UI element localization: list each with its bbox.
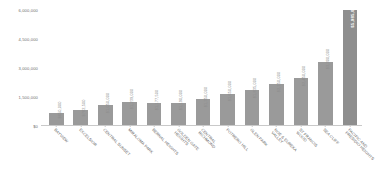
bar-slot: $1,650,000	[215, 10, 239, 125]
x-axis-slot: SEA CLIFF	[313, 127, 337, 184]
bar-slot: $5,985,000	[338, 10, 362, 125]
x-axis-tick-label: BAYVIEW	[53, 128, 69, 144]
plot-area: $650,000$782,500$1,050,000$1,239,000$1,1…	[44, 10, 362, 126]
bar[interactable]: $5,985,000	[343, 10, 358, 125]
bar-slot: $1,835,000	[240, 10, 264, 125]
bar-slot: $1,350,000	[191, 10, 215, 125]
bar-value-label: $5,985,000	[350, 5, 355, 29]
x-axis-slot: CENTRALRICHMOND	[191, 127, 215, 184]
bar-slot: $1,239,000	[117, 10, 141, 125]
x-axis-slot: MIRALOMA PARK	[117, 127, 141, 184]
y-axis: $01,500,0003,000,0004,500,0006,000,000	[0, 10, 42, 126]
x-axis-slot: BERNAL HEIGHTS	[142, 127, 166, 184]
x-axis-tick-label: PACIFIC ANDPRESIDIO HEIGHTS	[344, 128, 378, 162]
x-axis-slot: ST FRANCISWOOD	[289, 127, 313, 184]
x-axis-label-line: BAYVIEW	[53, 127, 69, 143]
y-axis-tick-label: 6,000,000	[18, 8, 38, 13]
x-axis-slot: CENTRAL SUNSET	[93, 127, 117, 184]
bar-slot: $1,050,000	[93, 10, 117, 125]
bar-slot: $2,450,000	[289, 10, 313, 125]
x-axis-slot: BAYVIEW	[44, 127, 68, 184]
x-axis-slot: GOLDEN GATEHEIGHTS	[166, 127, 190, 184]
axis-baseline	[41, 125, 362, 126]
x-axis-slot: NOE & EUREKAVALLEY	[264, 127, 288, 184]
x-axis-slot: POTRERO HILL	[215, 127, 239, 184]
y-axis-tick-label: 4,500,000	[18, 37, 38, 42]
x-axis-slot: GLEN PARK	[240, 127, 264, 184]
bar-slot: $1,177,500	[142, 10, 166, 125]
bar-series: $650,000$782,500$1,050,000$1,239,000$1,1…	[44, 10, 362, 125]
x-axis-slot: PACIFIC ANDPRESIDIO HEIGHTS	[338, 127, 362, 184]
bar[interactable]	[318, 62, 333, 125]
y-axis-tick-label: $0	[33, 124, 38, 129]
bar-slot: $1,190,000	[166, 10, 190, 125]
y-axis-tick-label: 1,500,000	[18, 95, 38, 100]
bar-slot: $782,500	[68, 10, 92, 125]
x-axis: BAYVIEWEXCELSIORCENTRAL SUNSETMIRALOMA P…	[44, 127, 362, 184]
bar-slot: $3,300,000	[313, 10, 337, 125]
x-axis-slot: EXCELSIOR	[68, 127, 92, 184]
bar-slot: $650,000	[44, 10, 68, 125]
y-axis-tick-label: 3,000,000	[18, 66, 38, 71]
bar-slot: $2,150,000	[264, 10, 288, 125]
